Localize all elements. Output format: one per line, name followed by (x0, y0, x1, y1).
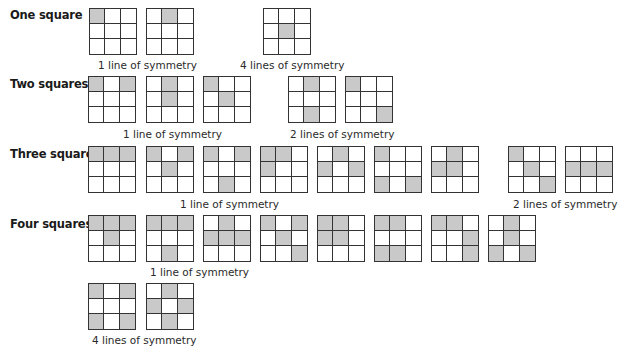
shaded-cell (390, 216, 405, 231)
shaded-cell (333, 231, 348, 246)
symmetry-grid (146, 283, 194, 330)
empty-cell (147, 246, 162, 261)
empty-cell (377, 92, 392, 107)
empty-cell (489, 231, 504, 246)
empty-cell (504, 246, 519, 261)
empty-cell (447, 177, 462, 192)
shaded-cell (147, 299, 162, 314)
symmetry-grid (288, 76, 336, 123)
empty-cell (289, 92, 304, 107)
shaded-cell (318, 231, 333, 246)
empty-cell (276, 216, 291, 231)
shaded-cell (279, 24, 294, 39)
empty-cell (520, 216, 535, 231)
empty-cell (178, 9, 193, 24)
empty-cell (292, 177, 307, 192)
empty-cell (261, 231, 276, 246)
empty-cell (292, 231, 307, 246)
empty-cell (390, 162, 405, 177)
empty-cell (219, 147, 234, 162)
shaded-cell (219, 231, 234, 246)
shaded-cell (178, 147, 193, 162)
shaded-cell (178, 299, 193, 314)
symmetry-grid (317, 146, 365, 193)
shaded-cell (204, 231, 219, 246)
shaded-cell (104, 216, 119, 231)
empty-cell (162, 39, 177, 54)
empty-cell (320, 77, 335, 92)
shaded-cell (162, 77, 177, 92)
empty-cell (89, 231, 104, 246)
empty-cell (104, 162, 119, 177)
empty-cell (346, 107, 361, 122)
shaded-cell (120, 77, 135, 92)
empty-cell (147, 77, 162, 92)
empty-cell (178, 231, 193, 246)
symmetry-caption: 4 lines of symmetry (92, 334, 196, 346)
empty-cell (235, 77, 250, 92)
symmetry-caption: 1 line of symmetry (180, 198, 279, 210)
empty-cell (121, 9, 136, 24)
empty-cell (432, 177, 447, 192)
symmetry-grid (317, 215, 365, 262)
empty-cell (120, 107, 135, 122)
symmetry-grid (508, 146, 556, 193)
empty-cell (178, 92, 193, 107)
empty-cell (289, 107, 304, 122)
empty-cell (292, 147, 307, 162)
shaded-cell (89, 147, 104, 162)
row-label: Four squares (10, 217, 92, 231)
shaded-cell (333, 147, 348, 162)
shaded-cell (89, 284, 104, 299)
empty-cell (235, 216, 250, 231)
symmetry-grid (345, 76, 393, 123)
empty-cell (432, 147, 447, 162)
empty-cell (147, 92, 162, 107)
empty-cell (89, 92, 104, 107)
empty-cell (361, 77, 376, 92)
empty-cell (375, 231, 390, 246)
shaded-cell (219, 92, 234, 107)
empty-cell (349, 246, 364, 261)
empty-cell (520, 231, 535, 246)
shaded-cell (540, 177, 555, 192)
shaded-cell (276, 147, 291, 162)
empty-cell (320, 107, 335, 122)
shaded-cell (304, 107, 319, 122)
symmetry-grid (88, 215, 136, 262)
empty-cell (279, 9, 294, 24)
empty-cell (463, 162, 478, 177)
shaded-cell (390, 246, 405, 261)
empty-cell (295, 9, 310, 24)
empty-cell (261, 177, 276, 192)
empty-cell (162, 107, 177, 122)
symmetry-grid (146, 8, 194, 55)
shaded-cell (504, 216, 519, 231)
symmetry-grid (374, 215, 422, 262)
shaded-cell (375, 216, 390, 231)
shaded-cell (104, 147, 119, 162)
shaded-cell (204, 77, 219, 92)
shaded-cell (349, 162, 364, 177)
empty-cell (346, 92, 361, 107)
empty-cell (104, 246, 119, 261)
row-label: Two squares (10, 77, 88, 91)
empty-cell (320, 92, 335, 107)
empty-cell (89, 162, 104, 177)
shaded-cell (377, 107, 392, 122)
empty-cell (178, 24, 193, 39)
empty-cell (178, 162, 193, 177)
empty-cell (390, 231, 405, 246)
shaded-cell (520, 246, 535, 261)
symmetry-grid (146, 215, 194, 262)
empty-cell (147, 39, 162, 54)
shaded-cell (235, 231, 250, 246)
shaded-cell (432, 216, 447, 231)
symmetry-grid (203, 76, 251, 123)
empty-cell (489, 216, 504, 231)
empty-cell (235, 92, 250, 107)
shaded-cell (89, 216, 104, 231)
shaded-cell (318, 162, 333, 177)
empty-cell (178, 284, 193, 299)
empty-cell (104, 314, 119, 329)
